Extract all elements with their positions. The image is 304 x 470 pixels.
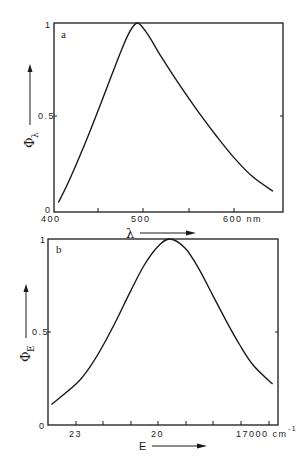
panel-a-curve bbox=[58, 23, 273, 203]
panel-b-xtick-20: 20 bbox=[151, 429, 164, 439]
panel-a-ylabel: Φ λ bbox=[22, 64, 40, 148]
panel-b-ylabel: Φ E bbox=[18, 284, 36, 362]
panel-b-xtick-23: 23 bbox=[69, 429, 82, 439]
panel-a-label: a bbox=[61, 28, 66, 40]
panel-a-ytick-1: 1 bbox=[45, 20, 52, 30]
panel-b-frame bbox=[48, 239, 278, 425]
svg-text:-1: -1 bbox=[288, 425, 297, 432]
panel-a: a 1 0.5 0 400 500 600 nm Φ λ λ bbox=[22, 20, 283, 241]
panel-a-xtick-400: 400 bbox=[41, 214, 61, 224]
arrow-up-icon bbox=[28, 64, 33, 72]
panel-b-ytick-0.5: 0.5 bbox=[32, 327, 49, 337]
panel-b: b 1 0.5 0 23 20 17000 cm -1 Φ E E bbox=[18, 235, 297, 452]
svg-text:E: E bbox=[139, 440, 146, 452]
svg-text:E: E bbox=[26, 345, 36, 352]
figure: a 1 0.5 0 400 500 600 nm Φ λ λ bbox=[0, 0, 304, 470]
panel-a-ytick-0.5: 0.5 bbox=[38, 111, 55, 121]
svg-text:17000 cm: 17000 cm bbox=[236, 429, 288, 439]
panel-b-curve bbox=[51, 239, 272, 405]
arrow-right-icon bbox=[197, 444, 207, 449]
panel-b-xtick-17000: 17000 cm -1 bbox=[236, 425, 297, 439]
panel-b-label: b bbox=[56, 243, 62, 255]
panel-a-frame bbox=[54, 23, 283, 212]
svg-text:λ: λ bbox=[30, 132, 40, 138]
arrow-right-icon bbox=[186, 231, 196, 236]
arrow-up-icon bbox=[24, 284, 29, 292]
panel-a-xtick-600: 600 nm bbox=[223, 214, 262, 224]
panel-a-xtick-500: 500 bbox=[131, 214, 151, 224]
panel-b-xlabel: E bbox=[139, 440, 207, 452]
panel-b-ytick-1: 1 bbox=[40, 235, 47, 245]
panel-b-ytick-0: 0 bbox=[39, 421, 46, 431]
